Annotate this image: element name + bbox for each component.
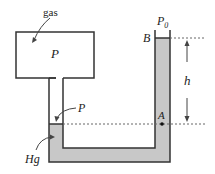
manometer-diagram: gas P P Hg P0 B A h	[0, 0, 215, 174]
gas-label: gas	[43, 6, 58, 18]
p-arrow-head-icon	[55, 116, 60, 122]
height-label: h	[184, 73, 191, 88]
interface-pressure-label: P	[77, 101, 86, 115]
arrow-up-head-icon	[185, 40, 190, 46]
point-a-label: A	[157, 109, 165, 121]
mercury-label: Hg	[24, 152, 40, 166]
atmospheric-pressure-label: P0	[156, 14, 168, 30]
gas-pointer-arrow	[34, 18, 50, 40]
manometer-tube-inner	[63, 30, 155, 148]
p-pointer-arrow	[57, 108, 76, 118]
mercury-column	[49, 38, 170, 162]
arrow-down-head-icon	[185, 116, 190, 122]
point-b-label: B	[143, 31, 151, 45]
point-a-dot	[160, 122, 164, 126]
manometer-tube-outer	[49, 30, 170, 162]
container-pressure-label: P	[50, 46, 59, 61]
